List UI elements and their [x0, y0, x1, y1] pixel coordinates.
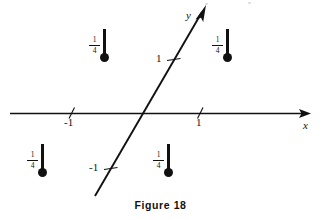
fraction-denominator: 4: [88, 46, 101, 54]
segment-bar-icon: [41, 144, 44, 171]
filled-endpoint-dot-icon: [223, 53, 232, 62]
filled-endpoint-dot-icon: [164, 168, 173, 177]
segment-bar-icon: [226, 29, 229, 56]
fraction-denominator: 4: [26, 161, 39, 169]
fraction-numerator: 1: [152, 151, 165, 159]
figure-container: x y -1 1 1 -1 1 4 1 4 1 4 1: [0, 0, 321, 220]
filled-endpoint-dot-icon: [100, 53, 109, 62]
fraction-numerator: 1: [211, 36, 224, 44]
fraction-label-lower-left: 1 4: [26, 151, 39, 170]
fraction-numerator: 1: [26, 151, 39, 159]
scan-speck: [248, 2, 251, 4]
fraction-label-upper-left: 1 4: [88, 36, 101, 55]
segment-bar-icon: [103, 29, 106, 56]
y-tick-label-positive-one: 1: [156, 53, 162, 64]
figure-caption: Figure 18: [0, 199, 321, 211]
segment-bar-icon: [167, 144, 170, 171]
fraction-denominator: 4: [211, 46, 224, 54]
fraction-numerator: 1: [88, 36, 101, 44]
jump-marker-upper-left: 1 4: [88, 29, 122, 65]
x-axis-label: x: [303, 120, 308, 131]
scan-speck: [205, 3, 208, 5]
jump-marker-lower-left: 1 4: [26, 144, 60, 180]
jump-marker-upper-right: 1 4: [211, 29, 245, 65]
fraction-denominator: 4: [152, 161, 165, 169]
fraction-label-lower-right: 1 4: [152, 151, 165, 170]
filled-endpoint-dot-icon: [38, 168, 47, 177]
y-tick-label-negative-one: -1: [89, 162, 98, 173]
y-axis-label: y: [186, 10, 191, 21]
x-tick-label-positive-one: 1: [196, 117, 202, 128]
jump-marker-lower-right: 1 4: [152, 144, 186, 180]
fraction-label-upper-right: 1 4: [211, 36, 224, 55]
x-tick-label-negative-one: -1: [64, 117, 73, 128]
coordinate-plot: [0, 0, 321, 220]
